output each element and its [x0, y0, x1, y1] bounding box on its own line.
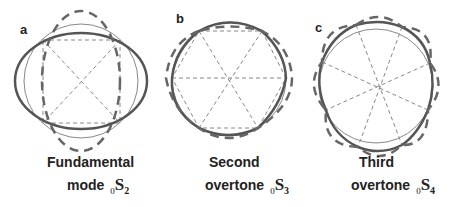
caption-a-line2: mode0S2 — [67, 175, 129, 196]
caption-a-mode-word: mode — [67, 177, 104, 193]
panel-b-diagram — [166, 22, 292, 138]
caption-c-line1: Third — [359, 154, 394, 170]
caption-a-line1: Fundamental — [47, 154, 134, 170]
mode-symbol-b: 0S3 — [270, 175, 289, 194]
caption-b-line2: overtone0S3 — [205, 175, 289, 196]
caption-c-overtone-word: overtone — [351, 177, 410, 193]
mode-symbol-a: 0S2 — [110, 175, 129, 194]
panel-label-b: b — [176, 11, 184, 26]
mode-symbol-c: 0S4 — [416, 175, 435, 194]
caption-b-overtone-word: overtone — [205, 177, 264, 193]
panel-label-a: a — [20, 22, 27, 37]
panel-a-diagram — [15, 11, 147, 151]
caption-c-line2: overtone0S4 — [351, 175, 435, 196]
panel-c-diagram — [314, 17, 439, 156]
panel-label-c: c — [315, 20, 322, 35]
caption-b-line1: Second — [209, 154, 260, 170]
